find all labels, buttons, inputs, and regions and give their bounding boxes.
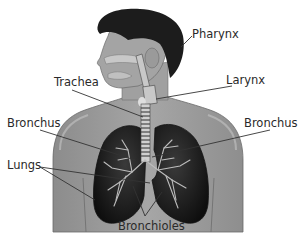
respiratory-diagram: Pharynx Larynx Trachea Bronchus Bronchus… bbox=[0, 0, 302, 235]
label-trachea: Trachea bbox=[53, 75, 99, 89]
label-pharynx: Pharynx bbox=[192, 27, 239, 41]
label-bronchioles: Bronchioles bbox=[118, 219, 185, 233]
label-bronchus-left: Bronchus bbox=[7, 116, 61, 130]
trachea bbox=[141, 104, 150, 162]
label-bronchus-right: Bronchus bbox=[244, 116, 298, 130]
label-lungs: Lungs bbox=[7, 158, 41, 172]
label-larynx: Larynx bbox=[226, 73, 265, 87]
